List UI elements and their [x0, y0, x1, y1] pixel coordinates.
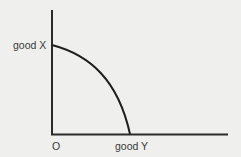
x-axis-label: good Y	[115, 141, 148, 152]
diagram-canvas	[0, 0, 241, 157]
y-axis-label: good X	[13, 40, 46, 51]
ppf-curve	[52, 45, 130, 134]
origin-label: O	[52, 141, 60, 152]
